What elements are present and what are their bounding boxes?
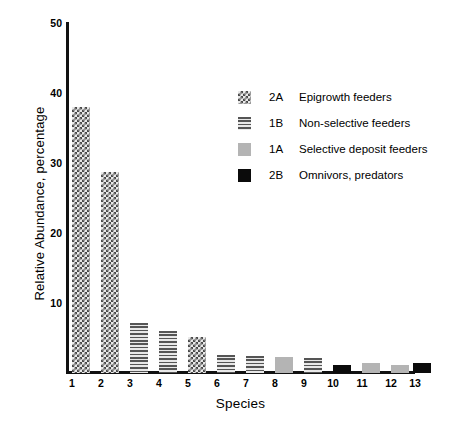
x-tick-label-1: 1 [57,378,87,389]
legend-code-1b: 1B [269,117,293,129]
bar-species-6 [217,355,235,373]
legend-label-2b: Omnivors, predators [299,169,403,181]
bar-species-4 [159,331,177,373]
bar-species-7 [246,356,264,373]
legend-swatch-black-icon [238,169,251,182]
legend-swatch-stripes-icon [238,117,251,130]
legend-swatch-gray-icon [238,143,251,156]
bar-species-13 [413,363,431,373]
legend-item-2b: 2B Omnivors, predators [238,162,428,188]
bar-species-2 [101,172,119,373]
x-tick-label-3: 3 [115,378,145,389]
legend-item-1a: 1A Selective deposit feeders [238,136,428,162]
x-tick-label-7: 7 [231,378,261,389]
legend-swatch-checkerboard-icon [238,91,251,104]
x-tick-label-11: 11 [347,378,377,389]
bar-species-5 [188,337,206,373]
bar-species-12 [391,365,409,373]
x-tick-label-8: 8 [260,378,290,389]
bar-species-10 [333,365,351,373]
y-tick-label-30: 30 [36,158,62,169]
legend-label-1a: Selective deposit feeders [299,143,428,155]
x-tick-label-4: 4 [144,378,174,389]
y-tick-label-40: 40 [36,88,62,99]
bar-species-3 [130,323,148,373]
legend-code-2b: 2B [269,169,293,181]
legend-code-1a: 1A [269,143,293,155]
legend-label-1b: Non-selective feeders [299,117,410,129]
plot-area [69,22,415,373]
y-tick-label-20: 20 [36,228,62,239]
bar-species-8 [275,357,293,373]
x-tick-label-2: 2 [86,378,116,389]
y-tick-label-10: 10 [36,298,62,309]
legend-code-2a: 2A [269,91,293,103]
x-tick-label-6: 6 [202,378,232,389]
y-tick-label-50: 50 [36,18,62,29]
y-axis-title: Relative Abundance, percentage [32,79,47,329]
x-axis-title: Species [66,396,415,411]
x-tick-label-10: 10 [318,378,348,389]
legend-label-2a: Epigrowth feeders [299,91,392,103]
x-tick-label-13: 13 [400,378,430,389]
legend-item-2a: 2A Epigrowth feeders [238,84,428,110]
legend-item-1b: 1B Non-selective feeders [238,110,428,136]
bar-chart-figure: Relative Abundance, percentage 50 40 30 … [0,0,456,425]
x-tick-label-9: 9 [289,378,319,389]
bar-species-11 [362,363,380,373]
x-tick-label-5: 5 [173,378,203,389]
legend: 2A Epigrowth feeders 1B Non-selective fe… [238,84,428,188]
bar-species-9 [304,358,322,373]
bar-species-1 [72,107,90,373]
